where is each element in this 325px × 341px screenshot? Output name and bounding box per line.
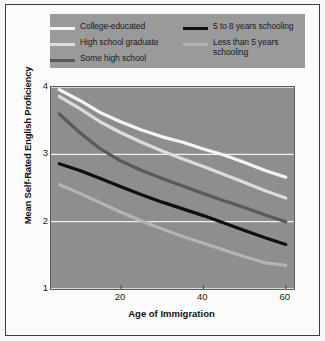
- legend-item-label: 5 to 8 years schooling: [213, 22, 294, 32]
- figure-container: College-educatedHigh school graduateSome…: [0, 0, 325, 341]
- x-axis-label: Age of Immigration: [50, 308, 293, 319]
- legend-swatch-some-high-school: [50, 59, 75, 62]
- chart-legend: College-educatedHigh school graduateSome…: [50, 14, 305, 68]
- legend-item-label: Less than 5 years schooling: [213, 38, 278, 57]
- y-tick-label: 1: [22, 282, 48, 293]
- legend-item-label: Some high school: [80, 54, 146, 64]
- legend-item: High school graduate: [50, 38, 158, 51]
- legend-column-left: College-educatedHigh school graduateSome…: [50, 14, 183, 68]
- series-line: [59, 90, 286, 178]
- chart-svg: [51, 87, 294, 289]
- legend-item: College-educated: [50, 22, 145, 35]
- legend-item: Less than 5 years schooling: [183, 38, 278, 51]
- legend-item: Some high school: [50, 54, 146, 67]
- x-tick-label: 40: [187, 291, 217, 302]
- legend-item-label: High school graduate: [80, 38, 158, 48]
- legend-swatch-high-school-graduate: [50, 43, 75, 46]
- legend-item: 5 to 8 years schooling: [183, 22, 294, 35]
- x-tick-label: 60: [270, 291, 300, 302]
- plot-area: [50, 86, 295, 290]
- legend-swatch-college-educated: [50, 27, 75, 30]
- series-line: [59, 185, 286, 266]
- legend-column-right: 5 to 8 years schoolingLess than 5 years …: [183, 14, 305, 68]
- legend-swatch-less-than-5-years: [183, 43, 208, 46]
- x-tick-label: 20: [105, 291, 135, 302]
- legend-swatch-5-to-8-years: [183, 27, 208, 30]
- y-axis-label: Mean Self-Rated English Proficiency: [22, 56, 33, 236]
- legend-item-label: College-educated: [80, 22, 145, 32]
